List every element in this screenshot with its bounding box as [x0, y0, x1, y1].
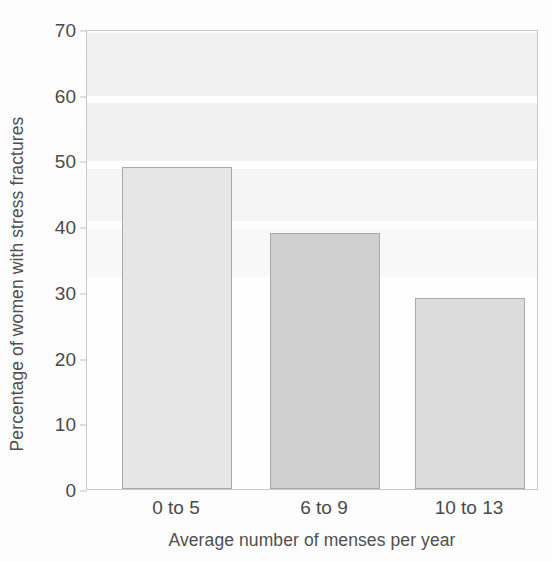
bar-chart-figure: Percentage of women with stress fracture… — [0, 0, 552, 561]
x-axis-title: Average number of menses per year — [86, 530, 538, 551]
x-tick-label-2: 10 to 13 — [435, 497, 504, 519]
y-tick-mark — [80, 228, 87, 229]
x-tick-label-1: 6 to 9 — [300, 497, 348, 519]
y-tick-label: 70 — [55, 20, 76, 42]
y-tick-mark — [80, 162, 87, 163]
y-tick-label: 30 — [55, 283, 76, 305]
scan-band — [87, 33, 537, 96]
y-tick-label: 0 — [65, 480, 76, 502]
y-tick-label: 60 — [55, 86, 76, 108]
y-tick-mark — [80, 491, 87, 492]
y-tick-label: 10 — [55, 414, 76, 436]
plot-area: 70 60 50 40 30 20 10 0 — [86, 30, 538, 490]
y-tick-mark — [80, 293, 87, 294]
bar-10-to-13[interactable] — [415, 298, 525, 489]
bar-6-to-9[interactable] — [270, 233, 380, 489]
y-tick-label: 40 — [55, 217, 76, 239]
y-tick-mark — [80, 31, 87, 32]
y-axis-title: Percentage of women with stress fracture… — [0, 34, 34, 534]
y-tick-mark — [80, 425, 87, 426]
y-tick-label: 50 — [55, 151, 76, 173]
y-tick-label: 20 — [55, 349, 76, 371]
scan-band — [87, 103, 537, 161]
x-tick-label-0: 0 to 5 — [152, 497, 200, 519]
bar-0-to-5[interactable] — [122, 167, 232, 489]
y-tick-mark — [80, 96, 87, 97]
y-tick-mark — [80, 359, 87, 360]
